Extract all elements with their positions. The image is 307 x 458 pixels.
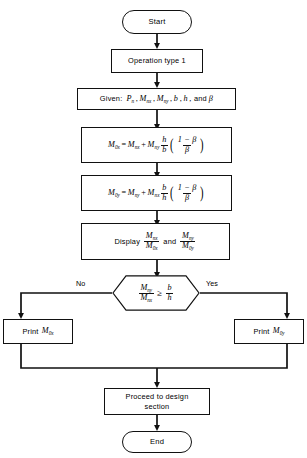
print-moy-verb: Print: [253, 327, 272, 336]
flowchart-canvas: Start Operation type 1 Given: Pn, Mnx, M…: [0, 0, 307, 458]
eq-moy-term2: Mnx: [148, 188, 160, 198]
node-equation-moy[interactable]: M0y = Mny + Mnx b h ( 1 − β β ): [81, 175, 232, 211]
decision-lhs-num: Mny: [139, 284, 154, 293]
eq-moy-term1: Mny: [128, 188, 140, 198]
proceed-line-2: section: [145, 402, 170, 411]
given-prefix: Given:: [100, 94, 127, 103]
connector-printright-merge: [157, 344, 287, 368]
display-verb: Display: [114, 237, 143, 246]
eq-moy-equals: =: [120, 188, 128, 198]
node-operation-type-1[interactable]: Operation type 1: [111, 49, 203, 73]
decision-rhs-ratio: b h: [166, 284, 173, 302]
eq-moy-ratio-num: b: [161, 184, 168, 193]
node-end-label: End: [150, 437, 164, 446]
decision-lhs-den: Mnx: [139, 293, 154, 303]
display-ratio-y-num: Mny: [180, 232, 195, 241]
decision-content: Mny Mnx ≥ b h: [112, 275, 200, 311]
eq-mox-beta-den: β: [183, 145, 190, 155]
decision-rhs-num: b: [166, 284, 173, 293]
connector-printleft-merge: [21, 344, 157, 368]
display-ratio-x-den: M0x: [144, 241, 159, 251]
eq-moy-plus: +: [140, 188, 148, 198]
eq-mox-term2: Mny: [148, 140, 160, 150]
eq-mox-plus: +: [140, 140, 148, 150]
node-decision[interactable]: Mny Mnx ≥ b h: [112, 275, 200, 311]
display-ratio-x: Mnx M0x: [144, 232, 159, 251]
given-conjunction: and: [193, 94, 209, 103]
node-proceed-to-design[interactable]: Proceed to design section: [104, 388, 210, 415]
eq-moy-lhs: M0y: [108, 188, 120, 198]
eq-mox-lhs: M0x: [108, 140, 120, 150]
eq-mox-equals: =: [120, 140, 128, 150]
display-content: Display Mnx M0x and Mny M0y: [114, 232, 196, 251]
eq-mox-beta-term: 1 − β β: [176, 136, 198, 154]
eq-mox-ratio-num: h: [161, 136, 168, 145]
node-operation-label: Operation type 1: [128, 56, 186, 65]
display-conjunction: and: [160, 237, 179, 246]
node-end[interactable]: End: [122, 431, 192, 453]
node-equation-mox[interactable]: M0x = Mnx + Mny h b ( 1 − β β ): [81, 127, 232, 163]
given-var-mny: Mny: [157, 94, 169, 104]
node-start[interactable]: Start: [122, 10, 192, 34]
node-print-mox[interactable]: Print M0x: [3, 319, 73, 344]
print-moy-variable: M0y: [273, 326, 285, 336]
node-start-label: Start: [148, 17, 165, 26]
node-print-moy[interactable]: Print M0y: [234, 319, 304, 344]
eq-moy-beta-den: β: [183, 193, 190, 203]
print-mox-content: Print M0x: [22, 326, 53, 336]
print-mox-verb: Print: [22, 327, 41, 336]
branch-label-no: No: [76, 279, 85, 288]
given-var-beta: β: [209, 94, 213, 104]
eq-moy-ratio-bh: b h: [161, 184, 168, 202]
proceed-line-1: Proceed to design: [126, 392, 189, 401]
display-ratio-x-num: Mnx: [144, 232, 159, 241]
eq-mox-ratio-den: b: [161, 145, 168, 155]
display-ratio-y-den: M0y: [180, 241, 195, 251]
branch-label-yes: Yes: [206, 279, 218, 288]
equation-moy-content: M0y = Mny + Mnx b h ( 1 − β β ): [108, 184, 205, 202]
decision-operator: ≥: [155, 288, 165, 298]
eq-mox-ratio-hb: h b: [161, 136, 168, 154]
connector-yes-printright: [200, 293, 287, 316]
given-var-pn: Pn: [126, 94, 134, 104]
equation-mox-content: M0x = Mnx + Mny h b ( 1 − β β ): [108, 136, 205, 154]
print-mox-variable: M0x: [42, 326, 54, 336]
display-ratio-y: Mny M0y: [180, 232, 195, 251]
given-var-mnx: Mnx: [139, 94, 151, 104]
print-moy-content: Print M0y: [253, 326, 284, 336]
decision-lhs-ratio: Mny Mnx: [139, 284, 154, 303]
eq-moy-beta-term: 1 − β β: [176, 184, 198, 202]
eq-moy-beta-num: 1 − β: [176, 184, 198, 193]
decision-rhs-den: h: [166, 293, 173, 303]
eq-mox-term1: Mnx: [128, 140, 140, 150]
connector-no-printleft: [21, 293, 112, 316]
node-given-content: Given: Pn, Mnx, Mny, b, h, and β: [100, 94, 213, 104]
eq-mox-beta-num: 1 − β: [176, 136, 198, 145]
node-given[interactable]: Given: Pn, Mnx, Mny, b, h, and β: [77, 88, 236, 110]
node-display[interactable]: Display Mnx M0x and Mny M0y: [81, 223, 230, 260]
eq-moy-ratio-den: h: [161, 193, 168, 203]
